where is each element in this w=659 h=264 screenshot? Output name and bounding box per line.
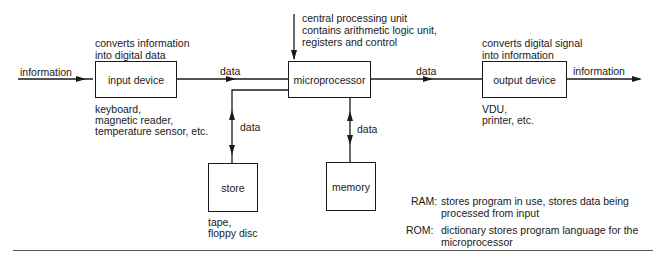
input-description-line2: into digital data bbox=[95, 49, 166, 61]
edge-label-cpu-memory: data bbox=[357, 123, 377, 135]
output-description-line2: into information bbox=[482, 49, 554, 61]
output-device-block: output device bbox=[482, 61, 567, 98]
ram-text-line1: stores program in use, stores data being bbox=[441, 195, 629, 207]
input-device-block: input device bbox=[95, 61, 177, 98]
microprocessor-label: microprocessor bbox=[294, 74, 366, 86]
output-description-line1: converts digital signal bbox=[482, 37, 582, 49]
rom-key: ROM: bbox=[406, 224, 433, 236]
bottom-rule-divider bbox=[13, 250, 653, 251]
edge-label-information-in: information bbox=[20, 66, 72, 78]
memory-block: memory bbox=[326, 162, 376, 211]
edge-label-cpu-to-output: data bbox=[416, 65, 436, 77]
edge-label-information-out: information bbox=[573, 65, 625, 77]
cpu-description-line2: contains arithmetic logic unit, bbox=[302, 24, 437, 36]
store-label: store bbox=[221, 182, 244, 194]
cpu-description-line1: central processing unit bbox=[302, 12, 407, 24]
ram-text-line2: processed from input bbox=[441, 207, 539, 219]
edge-label-input-to-cpu: data bbox=[220, 65, 240, 77]
ram-key: RAM: bbox=[411, 195, 437, 207]
rom-text-line1: dictionary stores program language for t… bbox=[441, 224, 638, 236]
rom-text-line2: microprocessor bbox=[441, 236, 513, 248]
input-device-label: input device bbox=[108, 74, 164, 86]
cpu-description-line3: registers and control bbox=[302, 36, 397, 48]
output-device-label: output device bbox=[493, 74, 555, 86]
store-example-line2: floppy disc bbox=[208, 227, 258, 239]
input-example-line3: temperature sensor, etc. bbox=[95, 125, 208, 137]
output-example-line2: printer, etc. bbox=[482, 114, 534, 126]
store-block: store bbox=[208, 163, 258, 212]
memory-label: memory bbox=[332, 181, 370, 193]
microprocessor-block: microprocessor bbox=[288, 61, 371, 98]
edge-label-cpu-store: data bbox=[240, 121, 260, 133]
input-description-line1: converts information bbox=[95, 37, 190, 49]
